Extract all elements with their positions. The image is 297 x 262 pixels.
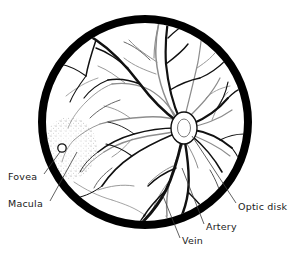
label-artery: Artery <box>206 221 237 232</box>
fovea-marker <box>58 144 66 152</box>
fundus-illustration <box>0 0 297 262</box>
optic-disk <box>171 112 197 144</box>
label-vein: Vein <box>182 235 203 246</box>
retinal-fundus-figure: Fovea Macula Optic disk Artery Vein <box>0 0 297 262</box>
label-macula: Macula <box>8 198 43 209</box>
label-fovea: Fovea <box>8 171 37 182</box>
label-optic-disk: Optic disk <box>238 201 287 212</box>
